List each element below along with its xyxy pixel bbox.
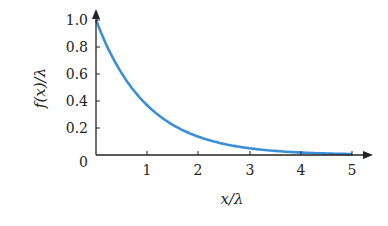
decay-curve [96,20,352,154]
chart: 1.0 0.8 0.6 0.4 0.2 0 1 2 3 4 5 x/λ f(x)… [0,0,388,226]
x-tick-label: 1 [143,162,152,178]
x-tick-label: 4 [297,162,306,178]
y-tick-label: 0.4 [66,93,88,109]
y-axis-label: f(x)/λ [31,68,49,109]
x-tick-label: 2 [194,162,203,178]
y-tick-label: 1.0 [66,12,88,28]
x-tick-label: 3 [246,162,255,178]
y-axis-arrow-icon [92,9,100,19]
x-tick-label: 5 [348,162,357,178]
x-axis-label: x/λ [220,190,243,208]
origin-label: 0 [79,154,88,170]
y-tick-label: 0.6 [66,66,88,82]
y-tick-label: 0.8 [66,39,88,55]
y-tick-label: 0.2 [66,120,88,136]
x-axis-arrow-icon [363,151,373,159]
